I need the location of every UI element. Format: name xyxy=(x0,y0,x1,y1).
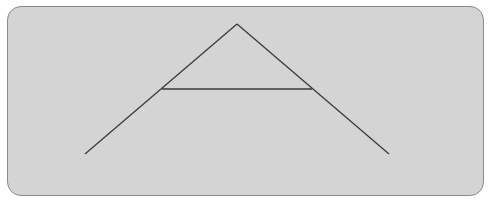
a-frame-diagram xyxy=(0,0,492,202)
